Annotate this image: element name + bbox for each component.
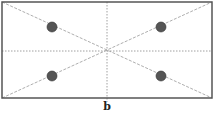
center-axes <box>2 2 212 102</box>
figure-caption: b <box>0 100 214 113</box>
point-bottom-right <box>156 71 166 81</box>
point-top-right <box>156 22 166 32</box>
point-bottom-left <box>47 71 57 81</box>
point-top-left <box>47 22 57 32</box>
diagram-canvas <box>0 0 214 115</box>
